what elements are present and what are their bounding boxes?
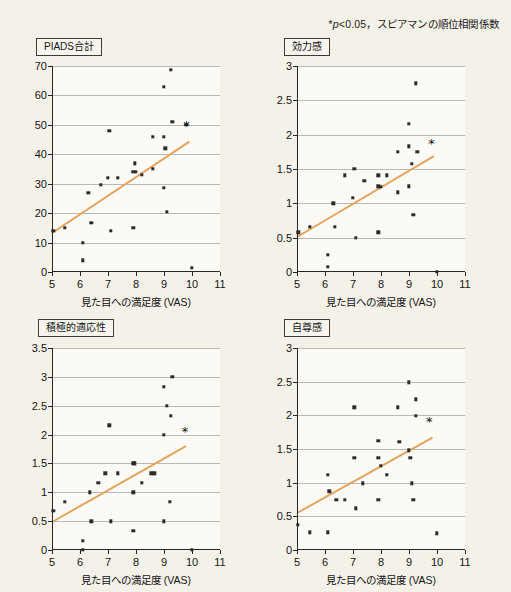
data-point xyxy=(385,473,388,476)
figure-scatter-matrix: *p<0.05，スピアマンの順位相関係数 PIADS合計*01020304050… xyxy=(0,0,511,592)
data-point xyxy=(354,507,357,510)
data-point xyxy=(397,440,400,443)
y-tick-label: 2 xyxy=(261,409,292,421)
gridline-y-2 xyxy=(297,415,465,416)
y-tick-mark xyxy=(293,415,297,416)
y-tick-mark xyxy=(293,382,297,383)
data-point xyxy=(326,473,329,476)
gridline-y-1 xyxy=(297,483,465,484)
x-tick-label: 8 xyxy=(378,556,384,568)
x-tick-label: 7 xyxy=(350,556,356,568)
y-tick-label: 0.5 xyxy=(261,510,292,522)
gridline-y-3 xyxy=(297,348,465,349)
y-tick-label: 2.5 xyxy=(261,376,292,388)
x-tick-mark xyxy=(297,550,298,554)
data-point xyxy=(410,482,413,485)
data-point xyxy=(343,498,346,501)
x-tick-label: 6 xyxy=(322,556,328,568)
data-point xyxy=(334,498,337,501)
y-tick-label: 3 xyxy=(261,342,292,354)
data-point xyxy=(411,498,414,501)
x-tick-mark xyxy=(381,550,382,554)
data-point xyxy=(376,498,379,501)
gridline-y-0.5 xyxy=(297,516,465,517)
x-axis-title-self-esteem: 見た目への満足度 (VAS) xyxy=(326,572,436,587)
y-tick-label: 1.5 xyxy=(261,443,292,455)
data-point xyxy=(396,406,399,409)
data-point xyxy=(414,414,417,417)
x-tick-label: 11 xyxy=(459,556,470,568)
x-tick-mark xyxy=(437,550,438,554)
x-tick-label: 5 xyxy=(294,556,300,568)
y-tick-label: 0 xyxy=(261,544,292,556)
x-tick-mark xyxy=(325,550,326,554)
data-point xyxy=(376,456,379,459)
data-point xyxy=(435,531,438,534)
y-axis-line xyxy=(297,348,298,550)
data-point xyxy=(326,531,329,534)
y-tick-mark xyxy=(293,348,297,349)
y-tick-mark xyxy=(293,449,297,450)
data-point xyxy=(379,464,382,467)
chart-panel-self-esteem: 自尊感*00.511.522.53567891011見た目への満足度 (VAS) xyxy=(0,0,511,592)
data-point xyxy=(353,406,356,409)
gridline-y-1.5 xyxy=(297,449,465,450)
x-tick-label: 10 xyxy=(431,556,443,568)
data-point xyxy=(361,482,364,485)
x-tick-mark xyxy=(465,550,466,554)
y-tick-mark xyxy=(293,483,297,484)
data-point xyxy=(353,456,356,459)
y-tick-label: 1 xyxy=(261,477,292,489)
data-point xyxy=(376,439,379,442)
significance-asterisk-self-esteem: * xyxy=(426,415,433,428)
chart-title-self-esteem: 自尊感 xyxy=(284,319,330,337)
x-tick-mark xyxy=(353,550,354,554)
y-tick-mark xyxy=(293,516,297,517)
data-point xyxy=(308,531,311,534)
data-point xyxy=(407,449,410,452)
data-point xyxy=(407,381,410,384)
data-point xyxy=(409,456,412,459)
x-tick-label: 9 xyxy=(406,556,412,568)
data-point xyxy=(327,490,330,493)
x-tick-mark xyxy=(409,550,410,554)
data-point xyxy=(414,397,417,400)
plot-area-self-esteem: * xyxy=(297,348,465,550)
gridline-y-2.5 xyxy=(297,382,465,383)
